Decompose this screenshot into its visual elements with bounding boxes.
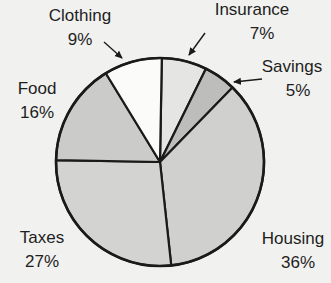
pie-slice-taxes bbox=[56, 160, 171, 266]
pie-chart-figure: Clothing 9% Insurance 7% Savings 5% Food… bbox=[0, 0, 331, 283]
label-taxes-pct: 27% bbox=[20, 250, 64, 274]
label-food-name: Food bbox=[18, 77, 57, 101]
label-insurance: Insurance 7% bbox=[215, 0, 290, 46]
label-taxes-name: Taxes bbox=[20, 226, 64, 250]
label-housing: Housing 36% bbox=[262, 227, 324, 275]
label-food-pct: 16% bbox=[18, 101, 57, 125]
label-food: Food 16% bbox=[18, 77, 57, 125]
label-insurance-pct: 7% bbox=[215, 22, 290, 46]
label-clothing: Clothing 9% bbox=[49, 4, 111, 52]
label-insurance-name: Insurance bbox=[215, 0, 290, 22]
label-savings-name: Savings bbox=[262, 55, 322, 79]
label-clothing-pct: 9% bbox=[49, 28, 111, 52]
label-savings: Savings 5% bbox=[262, 55, 322, 103]
label-housing-pct: 36% bbox=[262, 251, 324, 275]
label-housing-name: Housing bbox=[262, 227, 324, 251]
label-savings-pct: 5% bbox=[262, 79, 322, 103]
label-clothing-name: Clothing bbox=[49, 4, 111, 28]
label-taxes: Taxes 27% bbox=[20, 226, 64, 274]
insurance-arrow-icon bbox=[189, 33, 205, 55]
savings-arrow-icon bbox=[234, 79, 262, 82]
